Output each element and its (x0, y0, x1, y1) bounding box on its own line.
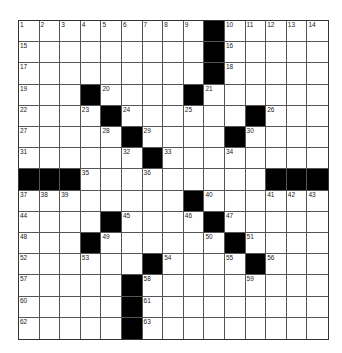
grid-cell[interactable]: 44 (19, 212, 40, 233)
grid-cell[interactable] (225, 275, 246, 296)
grid-cell[interactable]: 63 (143, 318, 164, 339)
grid-cell[interactable]: 49 (101, 233, 122, 254)
grid-cell[interactable] (40, 85, 61, 106)
grid-cell[interactable] (246, 63, 267, 84)
grid-cell[interactable] (81, 275, 102, 296)
grid-cell[interactable]: 20 (101, 85, 122, 106)
grid-cell[interactable] (143, 63, 164, 84)
grid-cell[interactable] (101, 275, 122, 296)
grid-cell[interactable]: 50 (204, 233, 225, 254)
grid-cell[interactable] (60, 63, 81, 84)
grid-cell[interactable]: 24 (122, 106, 143, 127)
grid-cell[interactable]: 37 (19, 191, 40, 212)
grid-cell[interactable] (225, 106, 246, 127)
grid-cell[interactable] (307, 63, 328, 84)
grid-cell[interactable] (60, 212, 81, 233)
grid-cell[interactable] (246, 148, 267, 169)
grid-cell[interactable]: 33 (163, 148, 184, 169)
grid-cell[interactable] (60, 85, 81, 106)
grid-cell[interactable] (101, 297, 122, 318)
grid-cell[interactable] (204, 106, 225, 127)
grid-cell[interactable] (184, 318, 205, 339)
grid-cell[interactable] (287, 42, 308, 63)
grid-cell[interactable] (246, 85, 267, 106)
grid-cell[interactable] (122, 233, 143, 254)
grid-cell[interactable] (81, 191, 102, 212)
grid-cell[interactable] (307, 254, 328, 275)
grid-cell[interactable] (287, 254, 308, 275)
grid-cell[interactable]: 12 (266, 21, 287, 42)
grid-cell[interactable]: 30 (246, 127, 267, 148)
grid-cell[interactable] (287, 212, 308, 233)
grid-cell[interactable] (122, 191, 143, 212)
grid-cell[interactable] (81, 63, 102, 84)
grid-cell[interactable] (246, 169, 267, 190)
grid-cell[interactable]: 22 (19, 106, 40, 127)
grid-cell[interactable] (40, 233, 61, 254)
grid-cell[interactable]: 25 (184, 106, 205, 127)
grid-cell[interactable] (81, 297, 102, 318)
grid-cell[interactable] (122, 254, 143, 275)
grid-cell[interactable] (307, 127, 328, 148)
grid-cell[interactable] (60, 254, 81, 275)
grid-cell[interactable] (225, 191, 246, 212)
grid-cell[interactable] (163, 63, 184, 84)
grid-cell[interactable] (287, 127, 308, 148)
grid-cell[interactable] (40, 42, 61, 63)
grid-cell[interactable]: 51 (246, 233, 267, 254)
grid-cell[interactable]: 39 (60, 191, 81, 212)
grid-cell[interactable] (40, 275, 61, 296)
grid-cell[interactable] (204, 169, 225, 190)
grid-cell[interactable]: 61 (143, 297, 164, 318)
grid-cell[interactable] (163, 127, 184, 148)
grid-cell[interactable] (307, 148, 328, 169)
grid-cell[interactable] (266, 233, 287, 254)
grid-cell[interactable]: 18 (225, 63, 246, 84)
grid-cell[interactable] (287, 148, 308, 169)
grid-cell[interactable] (266, 212, 287, 233)
grid-cell[interactable] (246, 191, 267, 212)
grid-cell[interactable] (225, 297, 246, 318)
grid-cell[interactable]: 34 (225, 148, 246, 169)
grid-cell[interactable] (287, 275, 308, 296)
grid-cell[interactable] (266, 318, 287, 339)
grid-cell[interactable] (101, 191, 122, 212)
grid-cell[interactable]: 26 (266, 106, 287, 127)
grid-cell[interactable] (163, 42, 184, 63)
grid-cell[interactable] (184, 169, 205, 190)
grid-cell[interactable] (81, 148, 102, 169)
grid-cell[interactable] (163, 318, 184, 339)
grid-cell[interactable]: 46 (184, 212, 205, 233)
grid-cell[interactable] (184, 42, 205, 63)
grid-cell[interactable]: 47 (225, 212, 246, 233)
grid-cell[interactable] (307, 297, 328, 318)
grid-cell[interactable] (266, 148, 287, 169)
grid-cell[interactable]: 60 (19, 297, 40, 318)
grid-cell[interactable] (122, 85, 143, 106)
grid-cell[interactable] (143, 191, 164, 212)
grid-cell[interactable]: 6 (122, 21, 143, 42)
grid-cell[interactable] (184, 127, 205, 148)
grid-cell[interactable]: 16 (225, 42, 246, 63)
grid-cell[interactable] (60, 106, 81, 127)
grid-cell[interactable] (163, 85, 184, 106)
grid-cell[interactable]: 17 (19, 63, 40, 84)
grid-cell[interactable] (246, 297, 267, 318)
grid-cell[interactable] (307, 85, 328, 106)
grid-cell[interactable] (60, 127, 81, 148)
grid-cell[interactable]: 42 (287, 191, 308, 212)
grid-cell[interactable] (163, 169, 184, 190)
grid-cell[interactable]: 15 (19, 42, 40, 63)
grid-cell[interactable] (163, 191, 184, 212)
grid-cell[interactable]: 55 (225, 254, 246, 275)
grid-cell[interactable] (184, 233, 205, 254)
grid-cell[interactable] (40, 148, 61, 169)
grid-cell[interactable] (287, 233, 308, 254)
grid-cell[interactable] (60, 275, 81, 296)
grid-cell[interactable] (60, 318, 81, 339)
grid-cell[interactable]: 10 (225, 21, 246, 42)
grid-cell[interactable]: 19 (19, 85, 40, 106)
grid-cell[interactable] (204, 318, 225, 339)
grid-cell[interactable] (287, 85, 308, 106)
grid-cell[interactable]: 29 (143, 127, 164, 148)
